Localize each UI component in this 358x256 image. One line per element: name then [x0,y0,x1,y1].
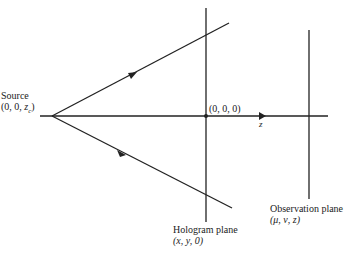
diagram-canvas: Source (0, 0, zc) (0, 0, 0) z Hologram p… [0,0,358,256]
upper-ray [52,23,229,116]
observation-plane-label: Observation plane (μ, ν, z) [270,203,343,225]
lower-ray [52,116,232,208]
origin-dot [204,114,208,118]
origin-label: (0, 0, 0) [209,103,241,114]
hologram-plane-title: Hologram plane [173,224,238,235]
upper-ray-arrow-icon [128,72,137,79]
z-axis-label: z [259,119,263,130]
source-label: Source (0, 0, zc) [1,90,35,117]
hologram-plane-label: Hologram plane (x, y, 0) [173,224,238,246]
source-coords: (0, 0, zc) [1,101,35,117]
observation-plane-coords: (μ, ν, z) [270,214,343,225]
hologram-plane-coords: (x, y, 0) [173,235,238,246]
source-title: Source [1,90,35,101]
observation-plane-title: Observation plane [270,203,343,214]
